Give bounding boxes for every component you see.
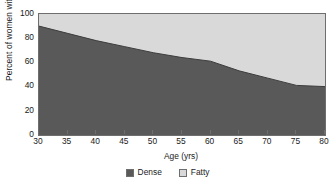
x-tick-label-60: 60	[198, 137, 222, 145]
x-axis-title: Age (yrs)	[38, 151, 324, 161]
x-tick-mark-70	[267, 130, 268, 134]
x-tick-label-40: 40	[83, 137, 107, 145]
legend-item-fatty: Fatty	[179, 168, 210, 177]
x-tick-label-45: 45	[112, 137, 136, 145]
x-tick-mark-75	[295, 130, 296, 134]
x-tick-mark-50	[152, 130, 153, 134]
stacked-area-chart: Percent of women with pattern 0204060801…	[0, 0, 335, 186]
x-tick-mark-45	[124, 130, 125, 134]
legend-swatch-fatty	[179, 169, 187, 177]
legend-label-fatty: Fatty	[191, 168, 210, 177]
x-tick-mark-30	[38, 130, 39, 134]
x-tick-label-35: 35	[55, 137, 79, 145]
x-tick-label-65: 65	[226, 137, 250, 145]
legend-item-dense: Dense	[126, 168, 162, 177]
x-tick-label-70: 70	[255, 137, 279, 145]
legend-label-dense: Dense	[138, 168, 162, 177]
x-tick-mark-80	[324, 130, 325, 134]
chart-legend: DenseFatty	[0, 168, 335, 177]
x-tick-label-30: 30	[26, 137, 50, 145]
x-tick-mark-65	[238, 130, 239, 134]
x-tick-label-75: 75	[283, 137, 307, 145]
x-tick-mark-60	[210, 130, 211, 134]
x-tick-mark-35	[67, 130, 68, 134]
legend-swatch-dense	[126, 169, 134, 177]
x-tick-label-80: 80	[312, 137, 335, 145]
x-tick-mark-40	[95, 130, 96, 134]
x-tick-mark-55	[181, 130, 182, 134]
x-tick-label-55: 55	[169, 137, 193, 145]
x-tick-label-50: 50	[140, 137, 164, 145]
